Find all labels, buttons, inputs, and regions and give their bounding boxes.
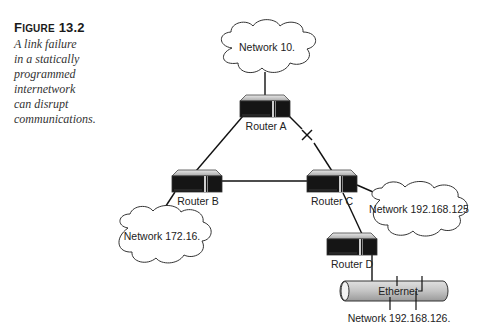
- network-diagram: Network 10. Network 172.16. Network 192.…: [0, 0, 486, 336]
- svg-text:Router C: Router C: [311, 195, 353, 207]
- router-b: Router B: [172, 170, 222, 207]
- link-routerA-routerB: [196, 116, 243, 171]
- link-routerA-routerC-failed-lower: [314, 143, 332, 171]
- ethernet-segment: Ethernet Network 192.168.126.: [340, 276, 450, 324]
- router-c: Router C: [307, 170, 357, 207]
- svg-text:Network 10.: Network 10.: [239, 41, 295, 53]
- svg-text:Router D: Router D: [331, 258, 373, 270]
- router-a: Router A: [240, 95, 290, 132]
- svg-text:Router B: Router B: [177, 195, 218, 207]
- svg-text:Network 172.16.: Network 172.16.: [124, 230, 200, 242]
- router-d: Router D: [327, 233, 377, 270]
- link-failure-x-icon: [302, 130, 312, 140]
- svg-text:Router A: Router A: [246, 120, 287, 132]
- cloud-network-192-168-125: Network 192.168.125: [369, 181, 469, 236]
- svg-text:Network 192.168.125: Network 192.168.125: [369, 203, 469, 215]
- svg-text:Network 192.168.126.: Network 192.168.126.: [348, 312, 451, 324]
- cloud-network-172: Network 172.16.: [119, 205, 211, 262]
- svg-text:Ethernet: Ethernet: [378, 285, 418, 297]
- cloud-network-10: Network 10.: [221, 20, 315, 73]
